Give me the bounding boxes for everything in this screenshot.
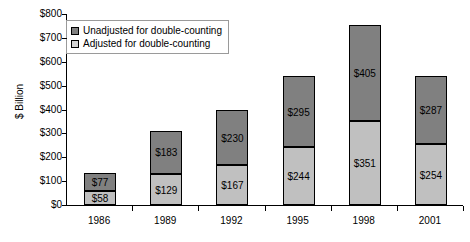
bar-value-label: $295 bbox=[284, 107, 314, 118]
bar-segment-unadjusted[interactable]: $183 bbox=[150, 131, 182, 175]
bar-segment-adjusted[interactable]: $129 bbox=[150, 174, 182, 205]
y-axis-tick-label: $800 bbox=[18, 9, 62, 19]
x-axis-category-label: 1989 bbox=[132, 215, 198, 226]
y-axis-tick-mark bbox=[62, 133, 67, 134]
y-axis-tick-mark bbox=[62, 62, 67, 63]
chart-legend: Unadjusted for double-counting Adjusted … bbox=[66, 20, 229, 54]
stacked-bar-chart: $ Billion $800$700$600$500$400$300$200$1… bbox=[0, 0, 470, 242]
bar-value-label: $287 bbox=[416, 105, 446, 116]
x-axis-tick-mark bbox=[132, 206, 133, 211]
y-axis-tick-mark bbox=[62, 181, 67, 182]
legend-item-unadjusted: Unadjusted for double-counting bbox=[71, 24, 222, 37]
y-axis-tick-label: $500 bbox=[18, 81, 62, 91]
bar-segment-adjusted[interactable]: $254 bbox=[415, 144, 447, 205]
y-axis-tick-mark bbox=[62, 14, 67, 15]
legend-item-adjusted: Adjusted for double-counting bbox=[71, 37, 222, 50]
y-axis-tick-label: $300 bbox=[18, 128, 62, 138]
y-axis-tick-mark bbox=[62, 110, 67, 111]
bar-value-label: $405 bbox=[350, 68, 380, 79]
bar-group[interactable]: $351$405 bbox=[349, 25, 381, 205]
y-axis-tick-label: $600 bbox=[18, 57, 62, 67]
bar-value-label: $183 bbox=[151, 147, 181, 158]
bar-value-label: $167 bbox=[217, 180, 247, 191]
bar-group[interactable]: $254$287 bbox=[415, 76, 447, 205]
y-axis-tick-label: $400 bbox=[18, 105, 62, 115]
bar-value-label: $58 bbox=[85, 193, 115, 204]
x-axis-category-label: 2001 bbox=[397, 215, 463, 226]
bar-value-label: $351 bbox=[350, 158, 380, 169]
legend-item-label: Adjusted for double-counting bbox=[83, 38, 210, 49]
y-axis-tick-labels: $800$700$600$500$400$300$200$100$0 bbox=[14, 0, 62, 242]
bar-group[interactable]: $167$230 bbox=[216, 110, 248, 205]
bar-group[interactable]: $58$77 bbox=[84, 173, 116, 205]
x-axis-category-label: 1998 bbox=[331, 215, 397, 226]
x-axis-category-label: 1992 bbox=[198, 215, 264, 226]
y-axis-tick-mark bbox=[62, 205, 67, 206]
bar-segment-unadjusted[interactable]: $405 bbox=[349, 25, 381, 122]
bar-segment-unadjusted[interactable]: $295 bbox=[283, 76, 315, 146]
x-axis-category-label: 1995 bbox=[265, 215, 331, 226]
bar-value-label: $230 bbox=[217, 133, 247, 144]
light-gray-swatch-icon bbox=[71, 40, 79, 48]
legend-item-label: Unadjusted for double-counting bbox=[83, 25, 222, 36]
bar-group[interactable]: $129$183 bbox=[150, 131, 182, 205]
y-axis-tick-mark bbox=[62, 38, 67, 39]
y-axis-tick-label: $100 bbox=[18, 176, 62, 186]
bar-group[interactable]: $244$295 bbox=[283, 76, 315, 205]
bar-segment-unadjusted[interactable]: $287 bbox=[415, 76, 447, 145]
dark-gray-swatch-icon bbox=[71, 27, 79, 35]
bar-value-label: $244 bbox=[284, 171, 314, 182]
bar-value-label: $129 bbox=[151, 185, 181, 196]
y-axis-tick-mark bbox=[62, 157, 67, 158]
bar-value-label: $254 bbox=[416, 170, 446, 181]
bar-segment-unadjusted[interactable]: $230 bbox=[216, 110, 248, 165]
bar-segment-adjusted[interactable]: $244 bbox=[283, 147, 315, 205]
y-axis-tick-label: $200 bbox=[18, 152, 62, 162]
x-axis-tick-mark bbox=[331, 206, 332, 211]
bar-value-label: $77 bbox=[85, 177, 115, 188]
x-axis-category-label: 1986 bbox=[66, 215, 132, 226]
bar-segment-adjusted[interactable]: $167 bbox=[216, 165, 248, 205]
x-axis-tick-mark bbox=[463, 206, 464, 211]
bar-segment-unadjusted[interactable]: $77 bbox=[84, 173, 116, 191]
bar-segment-adjusted[interactable]: $58 bbox=[84, 191, 116, 205]
x-axis-tick-mark bbox=[397, 206, 398, 211]
bar-segment-adjusted[interactable]: $351 bbox=[349, 121, 381, 205]
x-axis-tick-mark bbox=[198, 206, 199, 211]
y-axis-tick-label: $700 bbox=[18, 33, 62, 43]
x-axis-tick-mark bbox=[265, 206, 266, 211]
y-axis-tick-mark bbox=[62, 86, 67, 87]
y-axis-tick-label: $0 bbox=[18, 200, 62, 210]
